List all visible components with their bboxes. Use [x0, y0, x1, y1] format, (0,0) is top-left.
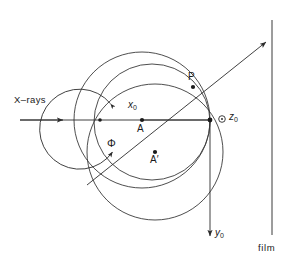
label-y0-subscript: 0: [220, 232, 224, 239]
point-marker-P: [191, 85, 195, 89]
point-marker-beam: [98, 118, 102, 122]
label-z0: z0: [229, 112, 238, 123]
label-z0-subscript: 0: [234, 116, 238, 123]
label-x0: x0: [128, 100, 137, 111]
label-x0-subscript: 0: [133, 104, 137, 111]
point-marker-origin: [208, 118, 213, 123]
figure-canvas: [0, 0, 300, 262]
label-film: film: [258, 243, 275, 253]
phi-angle-arc: [40, 89, 113, 169]
point-marker-A: [140, 118, 144, 122]
label-center-A: A: [137, 124, 144, 134]
z0-out-of-page-icon: [219, 116, 226, 123]
diffracted-ray: [87, 42, 266, 185]
label-y0: y0: [215, 228, 224, 239]
label-xrays: X–rays: [14, 95, 46, 105]
label-angle-phi: Φ: [107, 138, 116, 149]
xray-diffraction-figure: X–rays x0 A A′ P Φ z0 y0 film: [0, 0, 300, 262]
label-point-P: P: [188, 72, 195, 82]
label-center-A-prime: A′: [150, 155, 159, 165]
